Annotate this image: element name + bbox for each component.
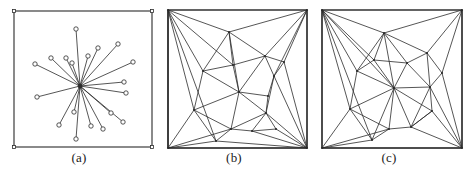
tri-edge-43: [194, 110, 231, 129]
tri-edge-48: [266, 113, 276, 129]
tri-vertex-10: [193, 109, 195, 111]
tri-vertex-7: [426, 52, 428, 54]
tri-edge-15: [322, 109, 350, 148]
star-point-1: [116, 42, 120, 46]
tri-edge-29: [350, 88, 394, 109]
star-point-17: [101, 127, 105, 131]
tri-edge-25: [384, 33, 394, 88]
tri-edge-49: [231, 129, 252, 131]
tri-vertex-3: [461, 147, 463, 149]
star-point-16: [89, 124, 93, 128]
star-point-3: [86, 54, 90, 58]
star-edge-17: [80, 86, 103, 129]
panel-c-graphic: [310, 0, 468, 150]
tri-edge-27: [384, 33, 427, 53]
tri-edge-17: [322, 129, 389, 148]
star-point-13: [109, 111, 113, 115]
tri-edge-33: [394, 63, 407, 88]
tri-edge-6: [322, 10, 357, 71]
corner-marker-1: [150, 9, 153, 12]
tri-edge-51: [252, 129, 276, 131]
tri-edge-51: [407, 63, 430, 87]
tri-edge-47: [231, 113, 266, 129]
tri-vertex-0: [167, 9, 169, 11]
tri-edge-31: [265, 56, 274, 76]
tri-edge-19: [432, 111, 462, 148]
tri-vertex-12: [388, 128, 390, 130]
tri-vertex-6: [356, 70, 358, 72]
tri-edge-32: [394, 87, 430, 88]
tri-vertex-0: [321, 9, 323, 11]
star-point-9: [122, 80, 126, 84]
tri-edge-9: [168, 10, 216, 141]
tri-vertex-1: [461, 9, 463, 11]
tri-edge-4: [168, 10, 229, 32]
tri-edge-28: [233, 56, 265, 65]
star-point-2: [96, 46, 100, 50]
star-point-14: [121, 120, 125, 124]
tri-edge-35: [233, 65, 239, 92]
tri-vertex-15: [215, 140, 217, 142]
panel-b-graphic: [155, 0, 313, 150]
star-center-point: [78, 84, 82, 88]
tri-edge-41: [231, 92, 239, 129]
tri-edge-35: [394, 88, 432, 111]
tri-edge-22: [442, 73, 462, 148]
tri-edge-42: [194, 92, 239, 110]
tri-vertex-8: [441, 72, 443, 74]
tri-edge-32: [203, 65, 233, 71]
tri-edge-33: [203, 71, 239, 92]
panel-b-caption: (b): [155, 150, 313, 166]
star-edge-0: [76, 29, 80, 86]
tri-edge-5: [384, 10, 462, 33]
tri-vertex-14: [251, 130, 253, 132]
star-point-5: [49, 56, 53, 60]
star-point-7: [33, 62, 37, 66]
corner-marker-2: [12, 145, 15, 148]
star-point-10: [124, 91, 128, 95]
tri-vertex-13: [410, 126, 412, 128]
tri-vertex-1: [306, 9, 308, 11]
corner-marker-0: [12, 9, 15, 12]
tri-edge-17: [168, 129, 231, 148]
tri-vertex-13: [230, 128, 232, 130]
tri-edge-39: [427, 53, 442, 73]
tri-edge-6: [168, 10, 203, 71]
star-point-12: [72, 110, 76, 114]
tri-vertex-8: [273, 75, 275, 77]
tri-edge-21: [430, 87, 462, 148]
tri-edge-31: [394, 88, 411, 127]
tri-vertex-16: [283, 61, 285, 63]
tri-edge-4: [322, 10, 384, 33]
tri-vertex-14: [371, 139, 373, 141]
star-point-11: [35, 95, 39, 99]
tri-vertex-17: [275, 128, 277, 130]
tri-edge-27: [229, 32, 239, 92]
tri-edge-34: [194, 71, 203, 110]
tri-edge-37: [274, 62, 284, 76]
tri-edge-42: [430, 73, 442, 87]
tri-edge-21: [266, 113, 307, 148]
panel-c-caption: (c): [310, 150, 468, 166]
tri-edge-52: [216, 141, 307, 148]
tri-edge-28: [357, 71, 394, 88]
tri-edge-20: [411, 127, 462, 148]
tri-vertex-6: [202, 70, 204, 72]
panel-b-border: [168, 10, 307, 148]
star-point-18: [74, 137, 78, 141]
tri-edge-7: [322, 10, 374, 60]
tri-edge-50: [216, 129, 231, 141]
tri-edge-48: [389, 127, 411, 129]
tri-vertex-5: [264, 55, 266, 57]
star-edge-16: [80, 86, 91, 126]
tri-edge-41: [427, 53, 430, 87]
tri-edge-52: [374, 60, 407, 63]
tri-edge-16: [168, 141, 216, 148]
corner-marker-3: [150, 145, 153, 148]
star-point-4: [64, 56, 68, 60]
tri-edge-37: [350, 71, 357, 109]
star-point-6: [131, 60, 135, 64]
tri-edge-44: [194, 110, 216, 141]
star-edge-15: [59, 86, 80, 125]
tri-edge-26: [203, 32, 229, 71]
